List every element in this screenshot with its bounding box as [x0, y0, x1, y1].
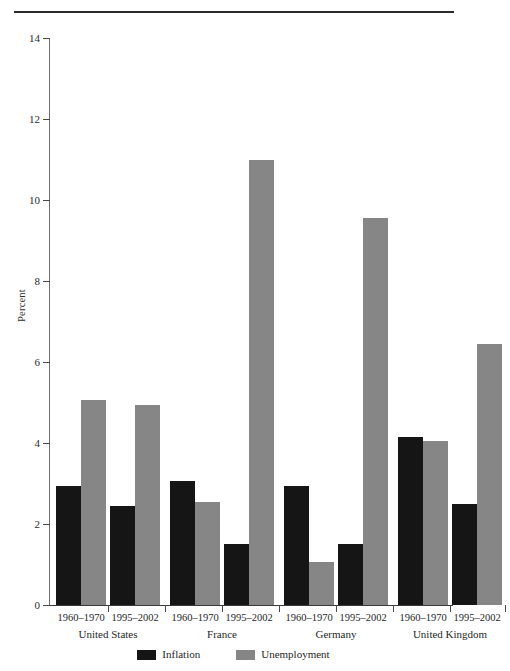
- y-axis-tick: [43, 605, 50, 606]
- x-axis-tick: [222, 605, 223, 612]
- y-axis-tick-label: 12: [12, 114, 40, 125]
- bar-inflation-united-kingdom-1995-2002: [452, 504, 477, 605]
- y-axis-tick-label: 10: [12, 195, 40, 206]
- bar-inflation-france-1995-2002: [224, 544, 249, 605]
- y-axis-tick-label: 8: [12, 276, 40, 287]
- bar-unemployment-united-states-1960-1970: [81, 400, 106, 605]
- x-axis-end-tick: [505, 605, 506, 612]
- x-axis-tick: [450, 605, 451, 612]
- bar-inflation-germany-1960-1970: [284, 486, 309, 605]
- legend-item-unemployment: Unemployment: [236, 649, 329, 660]
- bar-unemployment-united-kingdom-1960-1970: [423, 441, 448, 605]
- y-axis-tick: [43, 200, 50, 201]
- y-axis-tick-label: 4: [12, 438, 40, 449]
- x-axis-group-tick: [279, 605, 280, 612]
- y-axis-tick: [43, 362, 50, 363]
- y-axis-tick-label: 6: [12, 357, 40, 368]
- x-axis-group-tick: [393, 605, 394, 612]
- y-axis-tick-label: 2: [12, 519, 40, 530]
- bar-inflation-united-states-1995-2002: [110, 506, 135, 605]
- bar-unemployment-united-states-1995-2002: [135, 405, 160, 605]
- y-axis-tick: [43, 524, 50, 525]
- bar-unemployment-france-1960-1970: [195, 502, 220, 605]
- bar-unemployment-france-1995-2002: [249, 160, 274, 606]
- legend-label-inflation: Inflation: [162, 649, 200, 660]
- x-axis-period-label: 1995–2002: [442, 612, 510, 624]
- bar-inflation-united-states-1960-1970: [56, 486, 81, 605]
- y-axis-tick: [43, 443, 50, 444]
- y-axis-tick-label: 0: [12, 600, 40, 611]
- bar-inflation-united-kingdom-1960-1970: [398, 437, 423, 605]
- chart-legend: Inflation Unemployment: [0, 649, 467, 660]
- x-axis-tick: [108, 605, 109, 612]
- bar-inflation-france-1960-1970: [170, 481, 195, 605]
- x-axis-tick: [336, 605, 337, 612]
- y-axis-tick: [43, 119, 50, 120]
- y-axis-tick: [43, 38, 50, 39]
- y-axis-tick-label: 14: [12, 33, 40, 44]
- y-axis-tick: [43, 281, 50, 282]
- bar-unemployment-united-kingdom-1995-2002: [477, 344, 502, 605]
- legend-swatch-unemployment-icon: [236, 650, 255, 660]
- legend-item-inflation: Inflation: [137, 649, 200, 660]
- bar-inflation-germany-1995-2002: [338, 544, 363, 605]
- x-axis-country-label: United Kingdom: [378, 628, 510, 641]
- x-axis-group-tick: [165, 605, 166, 612]
- y-axis-line: [49, 38, 50, 605]
- bar-unemployment-germany-1960-1970: [309, 562, 334, 605]
- legend-swatch-inflation-icon: [137, 650, 156, 660]
- legend-label-unemployment: Unemployment: [261, 649, 329, 660]
- bar-unemployment-germany-1995-2002: [363, 218, 388, 605]
